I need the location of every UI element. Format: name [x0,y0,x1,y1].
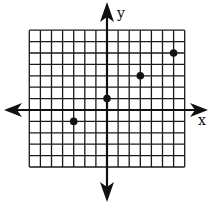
data-point [70,118,78,126]
data-point [103,95,111,103]
y-axis-label: y [117,6,125,20]
coordinate-plane [0,0,212,204]
data-point [170,49,178,57]
data-point [137,72,145,80]
x-axis-label: x [198,113,206,127]
